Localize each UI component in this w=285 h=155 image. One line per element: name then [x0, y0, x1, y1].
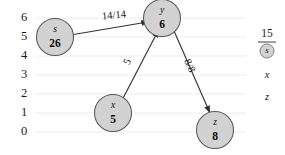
- y-tick-label-5: 5: [21, 29, 27, 43]
- y-tick-label-1: 1: [21, 105, 27, 119]
- legend-numerator: 15: [261, 27, 273, 39]
- node-x[interactable]: x 5: [95, 95, 132, 132]
- edge-label-s-to-y: 14/14: [102, 8, 128, 21]
- legend-symbol-x: x: [264, 69, 270, 80]
- node-x-value: 5: [110, 113, 116, 125]
- node-x-label: x: [110, 100, 116, 110]
- node-y[interactable]: y 6: [144, 0, 181, 37]
- node-z[interactable]: z 8: [197, 112, 234, 149]
- y-tick-label-0: 0: [21, 124, 27, 138]
- node-s-label: s: [53, 24, 57, 34]
- legend-symbol-s: s: [265, 45, 269, 55]
- node-s-value: 26: [49, 37, 61, 49]
- node-z-label: z: [212, 117, 217, 127]
- y-tick-label-2: 2: [21, 86, 27, 100]
- legend-symbol-z: z: [264, 91, 269, 102]
- y-axis-tick-labels: 6 5 4 3 2 1 0: [21, 10, 28, 138]
- node-s[interactable]: s 26: [37, 19, 74, 56]
- y-tick-label-6: 6: [21, 10, 27, 24]
- y-tick-label-3: 3: [21, 67, 27, 81]
- node-y-label: y: [159, 5, 165, 15]
- y-tick-label-4: 4: [21, 48, 28, 62]
- figure-canvas: 6 5 4 3 2 1 0 14/14 5 8/8 s: [0, 0, 285, 155]
- node-z-value: 8: [212, 130, 218, 142]
- node-y-value: 6: [159, 18, 165, 30]
- graph-figure: 6 5 4 3 2 1 0 14/14 5 8/8 s: [0, 0, 285, 155]
